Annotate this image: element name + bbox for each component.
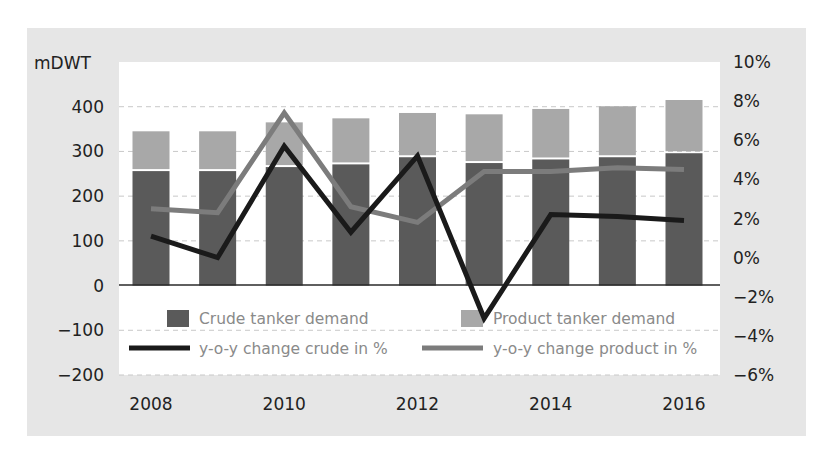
bar-product-2009 xyxy=(199,131,236,169)
x-tick-label: 2014 xyxy=(529,394,572,414)
right-tick-label: 2% xyxy=(733,209,760,229)
right-tick-label: 6% xyxy=(733,130,760,150)
left-tick-label: 100 xyxy=(72,231,104,251)
bar-crude-2011 xyxy=(332,164,369,285)
legend-label-crude-line: y-o-y change crude in % xyxy=(199,340,388,358)
left-tick-label: −100 xyxy=(57,320,104,340)
legend-swatch-crude-bar xyxy=(167,310,189,327)
right-tick-label: 4% xyxy=(733,169,760,189)
bar-crude-2014 xyxy=(532,159,569,285)
legend-label-crude-bar: Crude tanker demand xyxy=(199,310,369,328)
left-tick-label: 0 xyxy=(93,276,104,296)
right-tick-label: 10% xyxy=(733,52,771,72)
bar-product-2013 xyxy=(466,114,503,161)
x-tick-label: 2008 xyxy=(129,394,172,414)
bar-crude-2015 xyxy=(599,157,636,285)
bar-product-2008 xyxy=(133,131,170,169)
right-tick-label: −6% xyxy=(733,365,774,385)
right-tick-label: 0% xyxy=(733,248,760,268)
x-tick-label: 2016 xyxy=(662,394,705,414)
left-axis-unit-label: mDWT xyxy=(34,53,91,73)
right-tick-label: −2% xyxy=(733,287,774,307)
bar-product-2016 xyxy=(666,100,703,151)
bar-product-2011 xyxy=(332,118,369,162)
tanker-demand-chart: Crude tanker demand Product tanker deman… xyxy=(0,0,833,459)
x-tick-label: 2012 xyxy=(396,394,439,414)
left-tick-label: −200 xyxy=(57,365,104,385)
bar-crude-2010 xyxy=(266,167,303,285)
left-tick-label: 200 xyxy=(72,186,104,206)
legend-label-product-line: y-o-y change product in % xyxy=(493,340,697,358)
bar-crude-2009 xyxy=(199,171,236,285)
right-tick-label: −4% xyxy=(733,326,774,346)
bar-crude-2008 xyxy=(133,171,170,285)
bar-product-2015 xyxy=(599,106,636,155)
bar-product-2014 xyxy=(532,109,569,158)
left-tick-label: 300 xyxy=(72,141,104,161)
right-tick-label: 8% xyxy=(733,91,760,111)
bar-product-2012 xyxy=(399,113,436,155)
left-tick-label: 400 xyxy=(72,97,104,117)
legend-label-product-bar: Product tanker demand xyxy=(493,310,675,328)
x-tick-label: 2010 xyxy=(263,394,306,414)
